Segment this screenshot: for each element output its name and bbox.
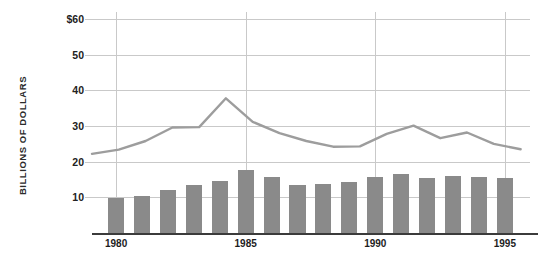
y-axis-tick-label: 20: [72, 156, 84, 168]
y-axis-tick-mark: [85, 126, 92, 127]
y-axis-tick-label: 30: [72, 120, 84, 132]
chart-container: BILLIONS OF DOLLARS $605040302010 198019…: [0, 0, 539, 271]
y-axis-tick-label: 10: [72, 191, 84, 203]
y-axis-tick-label: $60: [66, 13, 84, 25]
y-axis-tick-mark: [85, 19, 92, 20]
y-axis-tick-label: 50: [72, 49, 84, 61]
x-axis-tick-labels: 1980198519901995: [92, 238, 530, 258]
y-axis-title: BILLIONS OF DOLLARS: [0, 0, 44, 271]
x-axis-tick-label: 1985: [235, 238, 257, 249]
y-axis-tick-mark: [85, 90, 92, 91]
x-axis-tick-label: 1995: [494, 238, 516, 249]
x-axis-line: [92, 233, 538, 235]
y-axis-tick-mark: [85, 162, 92, 163]
line-series: [92, 12, 530, 233]
line-path: [92, 98, 521, 154]
y-axis-tick-label: 40: [72, 84, 84, 96]
y-axis-tick-mark: [85, 55, 92, 56]
plot-area: [92, 12, 530, 233]
x-axis-tick-label: 1990: [364, 238, 386, 249]
x-axis-tick-label: 1980: [105, 238, 127, 249]
y-axis-tick-mark: [85, 197, 92, 198]
y-axis-tick-labels: $605040302010: [44, 0, 90, 271]
